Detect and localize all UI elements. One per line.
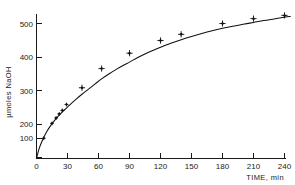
x-tick-label-90: 90	[125, 162, 134, 171]
x-tick-label-180: 180	[216, 162, 230, 171]
data-point-marker	[126, 50, 132, 56]
data-point-marker	[250, 16, 256, 22]
y-tick-label-300: 300	[20, 87, 34, 96]
data-point-marker	[57, 112, 61, 116]
data-point-marker	[65, 103, 69, 107]
x-axis-title: TIME, min	[246, 173, 284, 182]
x-axis-tick-labels: 0 30 60 90 120 150 180 210 240	[34, 162, 291, 171]
x-tick-label-210: 210	[247, 162, 261, 171]
y-tick-label-500: 500	[20, 20, 34, 29]
y-axis-tick-labels: 500 400 300 200 100	[20, 20, 34, 144]
data-point-marker	[60, 109, 64, 113]
x-tick-label-150: 150	[185, 162, 199, 171]
y-axis-ticks	[37, 24, 43, 158]
axis-lines	[37, 14, 287, 159]
x-tick-label-120: 120	[154, 162, 168, 171]
data-curve	[37, 16, 291, 158]
x-tick-label-240: 240	[278, 162, 292, 171]
x-axis-ticks	[37, 153, 285, 159]
data-point-marker	[178, 31, 184, 37]
chart-figure: 500 400 300 200 100 0 30 60 90 120 150	[0, 0, 295, 185]
data-point-marker	[79, 85, 85, 91]
data-point-marker	[219, 20, 225, 26]
y-tick-label-100: 100	[20, 134, 34, 143]
x-tick-label-60: 60	[94, 162, 103, 171]
chart-plot-area: 500 400 300 200 100 0 30 60 90 120 150	[0, 0, 295, 185]
y-axis-title: µmoles NaOH	[4, 66, 13, 118]
x-tick-label-0: 0	[34, 162, 39, 171]
data-point-markers	[42, 12, 288, 140]
data-point-marker	[99, 65, 105, 71]
y-tick-label-200: 200	[20, 120, 34, 129]
x-tick-label-30: 30	[63, 162, 72, 171]
y-tick-label-400: 400	[20, 53, 34, 62]
data-point-marker	[157, 37, 163, 43]
